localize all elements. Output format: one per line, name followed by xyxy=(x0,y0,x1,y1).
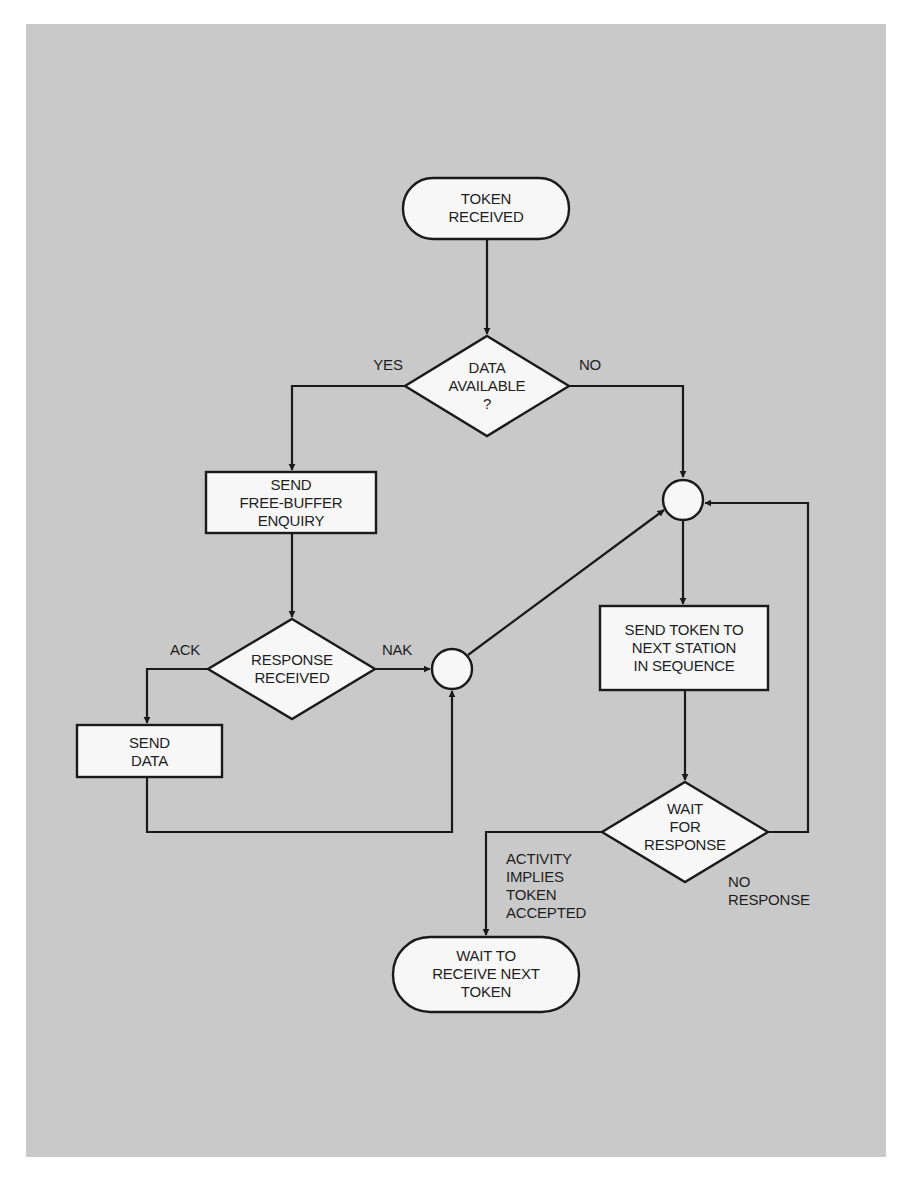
wait-next-token-text: WAIT TO RECEIVE NEXT TOKEN xyxy=(393,947,579,1001)
flowchart-canvas xyxy=(0,0,907,1188)
nak-label: NAK xyxy=(372,641,422,659)
wait-response-text: WAIT FOR RESPONSE xyxy=(635,800,735,854)
send-data-text: SEND DATA xyxy=(77,734,222,770)
connector-upper-junction xyxy=(663,480,703,520)
send-token-text: SEND TOKEN TO NEXT STATION IN SEQUENCE xyxy=(600,621,768,675)
no-response-label: NO RESPONSE xyxy=(728,873,828,909)
token-received-text: TOKEN RECEIVED xyxy=(403,190,569,226)
edge-ack-to-send-data xyxy=(147,669,208,723)
edge-yes-to-enquiry xyxy=(292,386,405,470)
activity-label: ACTIVITY IMPLIES TOKEN ACCEPTED xyxy=(506,850,606,922)
no-label: NO xyxy=(570,356,610,374)
connector-lower-junction xyxy=(432,649,472,689)
edge-no-to-junction xyxy=(569,386,683,477)
response-received-text: RESPONSE RECEIVED xyxy=(232,651,352,687)
yes-label: YES xyxy=(368,356,408,374)
data-available-text: DATA AVAILABLE ? xyxy=(427,359,547,413)
send-enquiry-text: SEND FREE-BUFFER ENQUIRY xyxy=(206,476,376,530)
ack-label: ACK xyxy=(160,641,210,659)
